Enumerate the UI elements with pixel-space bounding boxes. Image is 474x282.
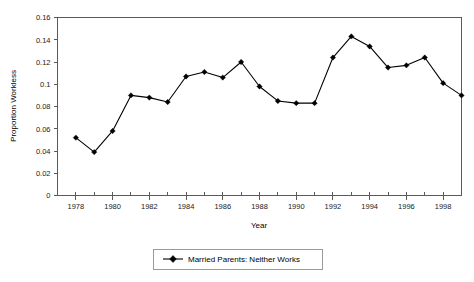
x-tick-label: 1992: [325, 202, 342, 211]
y-tick-label: 0.02: [36, 169, 51, 178]
y-tick-label: 0.14: [36, 36, 51, 45]
x-axis-ticks: 1978198019821984198619881990199219941996…: [68, 196, 452, 211]
data-point-marker: [404, 63, 409, 68]
x-tick-label: 1984: [178, 202, 195, 211]
series-line-married-parents-neither-works: [76, 36, 462, 152]
y-tick-label: 0.1: [40, 80, 50, 89]
y-tick-label: 0.06: [36, 125, 51, 134]
legend-entry-label: Married Parents: Neither Works: [188, 255, 300, 264]
y-tick-label: 0.12: [36, 58, 51, 67]
data-point-marker: [312, 100, 317, 105]
x-tick-label: 1980: [104, 202, 121, 211]
x-tick-label: 1986: [214, 202, 231, 211]
x-tick-label: 1978: [68, 202, 85, 211]
x-tick-label: 1996: [398, 202, 415, 211]
x-tick-label: 1994: [361, 202, 378, 211]
y-tick-label: 0: [46, 191, 50, 200]
chart-container: 00.020.040.060.080.10.120.140.16 1978198…: [0, 0, 474, 282]
y-tick-label: 0.16: [36, 13, 51, 22]
y-tick-label: 0.08: [36, 102, 51, 111]
x-axis-minor-ticks: [76, 192, 462, 196]
x-tick-label: 1998: [435, 202, 452, 211]
line-chart: 00.020.040.060.080.10.120.140.16 1978198…: [0, 0, 474, 282]
y-tick-label: 0.04: [36, 147, 51, 156]
y-axis-title: Proportion Workless: [9, 70, 18, 142]
legend: Married Parents: Neither Works: [153, 249, 322, 269]
data-point-marker: [147, 95, 152, 100]
x-tick-label: 1990: [288, 202, 305, 211]
x-tick-label: 1988: [251, 202, 268, 211]
data-point-marker: [128, 93, 133, 98]
y-axis-ticks: 00.020.040.060.080.10.120.140.16: [36, 13, 58, 200]
x-tick-label: 1982: [141, 202, 158, 211]
data-point-marker: [202, 69, 207, 74]
x-axis-title: Year: [251, 221, 268, 230]
data-point-marker: [294, 100, 299, 105]
